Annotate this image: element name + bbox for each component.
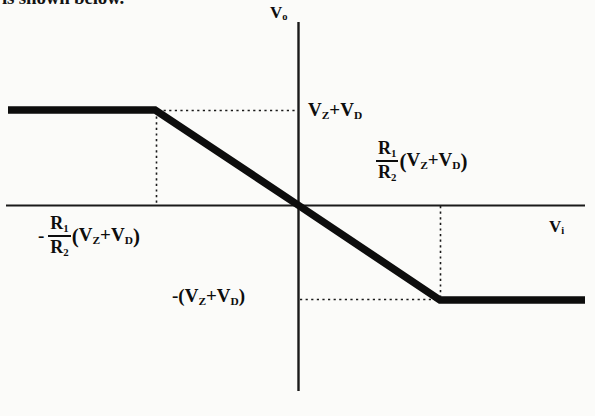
negative-breakpoint-numerator: R1 <box>48 214 70 234</box>
upper-clamp-level-label: VZ+VD <box>308 100 362 121</box>
negative-breakpoint-close-paren: ) <box>133 226 140 247</box>
negative-breakpoint-num-r: R <box>50 213 63 233</box>
negative-breakpoint-label: - R1 R2 (VZ+VD) <box>38 215 140 258</box>
positive-breakpoint-den-sub: 2 <box>391 170 396 182</box>
lower-clamp-lead-paren: -( <box>172 285 185 306</box>
plot-canvas <box>0 0 595 416</box>
lower-clamp-v2: V <box>217 285 231 306</box>
x-axis-label: Vi <box>549 218 564 237</box>
negative-breakpoint-den-sub: 2 <box>63 245 68 257</box>
positive-breakpoint-label: R1 R2 (VZ+VD) <box>375 140 468 183</box>
x-axis-label-symbol: V <box>549 217 561 236</box>
positive-breakpoint-denominator: R2 <box>376 163 398 183</box>
positive-breakpoint-fraction: R1 R2 <box>376 139 398 182</box>
positive-breakpoint-numerator: R1 <box>376 139 398 159</box>
positive-breakpoint-num-sub: 1 <box>391 147 396 159</box>
negative-breakpoint-minus: - <box>38 226 47 245</box>
positive-breakpoint-sub-z: Z <box>420 159 428 171</box>
positive-breakpoint-num-r: R <box>378 138 391 158</box>
lower-clamp-plus: + <box>206 285 217 306</box>
lower-clamp-level-label: -(VZ+VD) <box>172 286 245 307</box>
negative-breakpoint-sub-d: D <box>125 234 133 246</box>
negative-breakpoint-plus: + <box>100 224 111 245</box>
positive-breakpoint-den-r: R <box>378 162 391 182</box>
negative-breakpoint-sub-z: Z <box>92 234 100 246</box>
negative-breakpoint-num-sub: 1 <box>63 222 68 234</box>
negative-breakpoint-open-paren: ( <box>72 226 79 247</box>
negative-breakpoint-denominator: R2 <box>48 238 70 258</box>
lower-clamp-sub-d: D <box>231 295 239 307</box>
lower-clamp-sub-z: Z <box>198 295 206 307</box>
upper-clamp-sub-d: D <box>354 109 362 121</box>
y-axis-label: Vo <box>270 4 288 23</box>
x-axis-label-subscript: i <box>561 225 564 236</box>
negative-breakpoint-v1: V <box>79 224 93 245</box>
negative-breakpoint-v2: V <box>111 224 125 245</box>
positive-breakpoint-plus: + <box>428 149 439 170</box>
upper-clamp-v1: V <box>308 99 322 120</box>
transfer-characteristic-figure: is shown below. Vo Vi VZ+VD -(VZ+VD) R1 <box>0 0 595 416</box>
positive-breakpoint-sub-d: D <box>452 159 460 171</box>
upper-clamp-plus: + <box>329 99 340 120</box>
positive-breakpoint-v2: V <box>439 149 453 170</box>
y-axis-label-subscript: o <box>282 11 287 22</box>
lower-clamp-close-paren: ) <box>239 285 245 306</box>
upper-clamp-v2: V <box>340 99 354 120</box>
lower-clamp-v1: V <box>185 285 199 306</box>
negative-breakpoint-fraction: R1 R2 <box>48 214 70 257</box>
negative-breakpoint-den-r: R <box>50 237 63 257</box>
positive-breakpoint-close-paren: ) <box>461 151 468 172</box>
positive-breakpoint-v1: V <box>406 149 420 170</box>
y-axis-label-symbol: V <box>270 3 282 22</box>
